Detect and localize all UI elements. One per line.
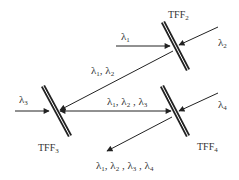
lambda2-input-arrow — [179, 27, 218, 45]
output-label: λ1, λ2 , λ3 , λ4 — [96, 159, 154, 173]
lambda12-label: λ1, λ2 — [91, 64, 115, 78]
lambda4-label: λ4 — [218, 98, 227, 112]
output-beam-arrow — [107, 117, 172, 151]
lambda4-input-arrow — [179, 93, 218, 111]
multiplexer-diagram: TFF2 TFF3 TFF4 λ1 λ2 λ3 λ4 λ1, λ2 λ1, λ2… — [0, 0, 239, 180]
lambda123-label: λ1, λ2 , λ3 — [107, 95, 148, 109]
lambda2-label: λ2 — [218, 36, 227, 50]
lambda1-label: λ1 — [121, 30, 130, 44]
tff4-label: TFF4 — [197, 141, 218, 154]
tff3-label: TFF3 — [38, 142, 59, 155]
tff2-label: TFF2 — [168, 9, 189, 22]
lambda3-label: λ3 — [19, 93, 28, 107]
